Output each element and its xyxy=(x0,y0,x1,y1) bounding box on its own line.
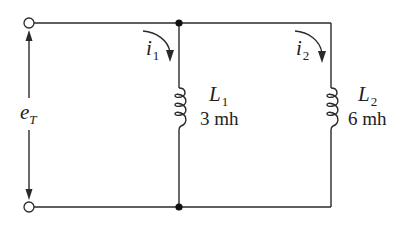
current-label-i1: i1 xyxy=(146,38,159,59)
inductor-l2-sub: 2 xyxy=(371,94,378,109)
inductor-value-l1: 3 mh xyxy=(200,109,239,128)
inductor-label-l2: L2 xyxy=(358,84,377,105)
inductor-l2-main: L xyxy=(358,82,370,106)
current-i2-main: i xyxy=(296,36,302,60)
terminal-top xyxy=(24,18,34,28)
source-voltage-label: eT xyxy=(20,102,37,123)
inductor-label-l1: L1 xyxy=(209,84,228,105)
current-i1-main: i xyxy=(146,36,152,60)
terminal-bottom xyxy=(24,202,34,212)
current-i1-sub: 1 xyxy=(153,48,160,63)
junction-top xyxy=(175,19,182,26)
inductor-l1-main: L xyxy=(209,82,221,106)
inductor-l2 xyxy=(327,23,338,207)
coil-icon xyxy=(327,88,338,130)
inductor-l1-value: 3 mh xyxy=(200,108,239,129)
arrow-up-icon xyxy=(26,30,33,41)
arrow-down-icon xyxy=(26,189,33,200)
inductor-l1-sub: 1 xyxy=(222,94,229,109)
coil-icon xyxy=(175,88,186,130)
inductor-value-l2: 6 mh xyxy=(348,109,387,128)
inductor-l2-value: 6 mh xyxy=(348,108,387,129)
source-label-sub: T xyxy=(29,112,36,127)
inductor-l1 xyxy=(175,23,186,207)
source-label-main: e xyxy=(20,100,29,124)
current-i2-sub: 2 xyxy=(303,48,310,63)
current-label-i2: i2 xyxy=(296,38,309,59)
junction-bottom xyxy=(175,203,182,210)
arrow-down-icon xyxy=(166,50,174,62)
arrow-down-icon xyxy=(318,51,326,63)
